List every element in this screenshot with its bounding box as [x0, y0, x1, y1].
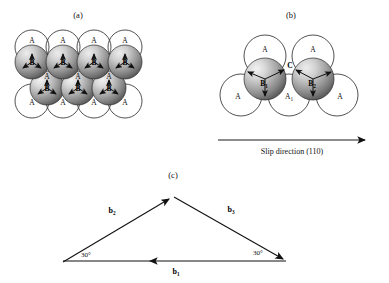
sphere-label-b2-sub: 2: [313, 83, 316, 89]
sphere-label-b: B: [91, 58, 96, 67]
close-packed-plane-figure: (a): [0, 0, 389, 283]
vector-b1-sub: 1: [177, 271, 180, 277]
sphere-label-b: B: [75, 84, 80, 93]
vector-b2-line: [63, 199, 169, 262]
slip-direction-caption: Slip direction (110): [261, 147, 324, 156]
svg-text:30°: 30°: [81, 251, 91, 259]
sphere-label-a: A: [122, 36, 128, 45]
svg-text:b3: b3: [227, 205, 234, 215]
sphere-label-b: B: [122, 58, 127, 67]
sphere-label-a: A: [337, 92, 343, 101]
sphere-label-b: B: [44, 84, 49, 93]
sphere-label-a: A: [60, 98, 66, 107]
sphere-label-a: A: [29, 36, 35, 45]
vector-label-b1: b1: [172, 267, 179, 277]
vector-label-b2: b2: [108, 206, 115, 216]
svg-text:A1: A1: [285, 92, 293, 102]
sphere-label-a: A: [29, 98, 35, 107]
sphere-label-a: A: [106, 72, 112, 81]
panel-a: (a): [15, 10, 142, 118]
panel-c: (c) b2 b3 b1 30° 30°: [63, 170, 286, 277]
sphere-label-c: C: [287, 61, 292, 70]
panel-a-caption: (a): [73, 10, 83, 20]
angle-label-right: 30°: [253, 249, 263, 257]
sphere-label-a: A: [310, 45, 316, 54]
sphere-label-a: A: [60, 36, 66, 45]
angle-label-left: 30°: [81, 251, 91, 259]
sphere-label-a: A: [262, 45, 268, 54]
panel-b-a1-label: A1: [285, 92, 293, 102]
sphere-label-b: B: [106, 84, 111, 93]
svg-text:30°: 30°: [253, 249, 263, 257]
angle-left-unit: °: [88, 251, 91, 259]
sphere-label-a: A: [122, 98, 128, 107]
svg-text:b1: b1: [172, 267, 179, 277]
angle-right-unit: °: [260, 249, 263, 257]
sphere-label-b1-sub: 1: [265, 83, 268, 89]
panel-b: (b): [218, 10, 365, 156]
sphere-label-a: A: [91, 36, 97, 45]
vector-label-b3: b3: [227, 205, 234, 215]
sphere-label-a: A: [75, 72, 81, 81]
svg-text:b2: b2: [108, 206, 115, 216]
vector-b2-sub: 2: [113, 210, 116, 216]
sphere-label-a1-sub: 1: [290, 96, 293, 102]
sphere-label-b: B: [29, 58, 34, 67]
figure-root: (a): [0, 0, 389, 283]
sphere-label-a: A: [235, 92, 241, 101]
sphere-label-a: A: [44, 72, 50, 81]
panel-c-caption: (c): [168, 170, 178, 180]
sphere-label-b: B: [60, 58, 65, 67]
sphere-label-a: A: [91, 98, 97, 107]
panel-b-caption: (b): [286, 10, 296, 20]
vector-b3-sub: 3: [232, 209, 235, 215]
